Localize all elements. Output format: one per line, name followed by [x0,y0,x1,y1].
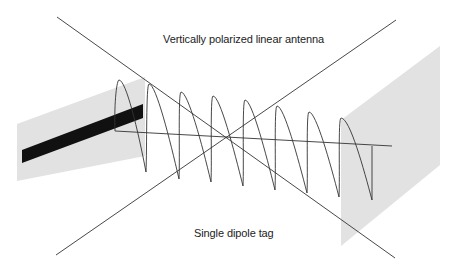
antenna-label: Vertically polarized linear antenna [163,33,324,45]
tag-label: Single dipole tag [194,227,274,239]
polarized-wave [115,80,372,200]
